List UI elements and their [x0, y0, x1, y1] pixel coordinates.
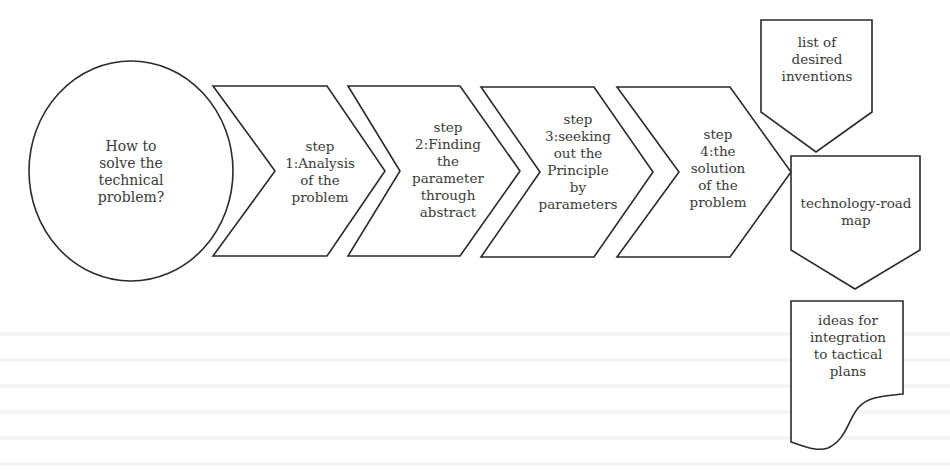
start-label-line: How to	[98, 138, 165, 155]
step-3-line: Principle	[539, 162, 618, 179]
step-2-line: the	[412, 153, 484, 170]
step-2-line: 2:Finding	[412, 136, 484, 153]
step-2-line: step	[412, 119, 484, 136]
step-4-line: step	[690, 126, 747, 143]
step-3-line: 3:seeking	[539, 128, 618, 145]
start-label: How to solve the technical problem?	[70, 120, 192, 224]
ideas-label-line: ideas for	[810, 312, 886, 329]
step-3-line: parameters	[539, 196, 618, 213]
list-label-line: inventions	[782, 68, 853, 85]
step-1-line: 1:Analysis	[285, 155, 355, 172]
step-2-line: parameter	[412, 170, 484, 187]
ideas-document-label: ideas for integration to tactical plans	[792, 310, 904, 382]
step-2-label: step 2:Finding the parameter through abs…	[398, 100, 498, 240]
roadmap-label-line: map	[800, 212, 911, 229]
start-label-line: technical	[98, 172, 165, 189]
technology-roadmap-label: technology-road map	[792, 190, 920, 234]
step-1-line: step	[285, 138, 355, 155]
step-1-line: problem	[285, 189, 355, 206]
ideas-label-line: to tactical	[810, 346, 886, 363]
ideas-label-line: plans	[810, 363, 886, 380]
step-4-line: 4:the	[690, 143, 747, 160]
step-3-line: step	[539, 111, 618, 128]
ideas-label-line: integration	[810, 329, 886, 346]
step-4-line: problem	[690, 194, 747, 211]
roadmap-label-line: technology-road	[800, 195, 911, 212]
start-label-line: solve the	[98, 155, 165, 172]
step-3-line: by	[539, 179, 618, 196]
step-2-line: abstract	[412, 204, 484, 221]
step-1-line: of the	[285, 172, 355, 189]
step-2-line: through	[412, 187, 484, 204]
list-label-line: list of	[782, 34, 853, 51]
step-3-label: step 3:seeking out the Principle by para…	[526, 92, 630, 232]
start-label-line: problem?	[98, 189, 165, 206]
step-4-label: step 4:the solution of the problem	[668, 108, 768, 228]
step-4-line: solution	[690, 160, 747, 177]
step-4-line: of the	[690, 177, 747, 194]
step-3-line: out the	[539, 145, 618, 162]
step-1-label: step 1:Analysis of the problem	[270, 120, 370, 224]
list-of-inventions-label: list of desired inventions	[764, 28, 870, 90]
list-label-line: desired	[782, 51, 853, 68]
